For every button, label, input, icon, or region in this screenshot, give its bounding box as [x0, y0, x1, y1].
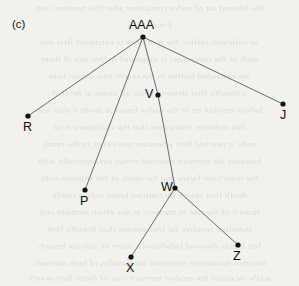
edge-w-z: [175, 188, 238, 245]
node-label-p: P: [80, 195, 88, 208]
node-label-z: Z: [233, 250, 241, 263]
edge-aaa-r: [28, 37, 143, 116]
node-dot-v: [155, 92, 160, 97]
node-dot-w: [172, 185, 177, 190]
node-dot-p: [82, 187, 87, 192]
node-label-x: X: [126, 262, 134, 275]
node-dot-aaa: [140, 34, 145, 39]
node-label-r: R: [23, 121, 32, 134]
node-label-w: W: [161, 181, 173, 194]
node-label-aaa: AAA: [129, 19, 154, 32]
edges-layer: [28, 37, 283, 257]
node-label-v: V: [145, 88, 153, 101]
node-dot-r: [25, 113, 30, 118]
edge-aaa-j: [143, 37, 283, 104]
node-dot-z: [235, 242, 240, 247]
node-label-j: J: [280, 109, 286, 122]
figure-panel: the filtered set of nodes remaining afte…: [0, 0, 299, 286]
edge-w-x: [131, 188, 175, 257]
tree-diagram: [0, 0, 299, 286]
nodes-layer: [25, 34, 285, 259]
edge-aaa-p: [85, 37, 143, 190]
edge-v-w: [158, 95, 175, 188]
node-dot-x: [128, 254, 133, 259]
node-dot-j: [280, 101, 285, 106]
